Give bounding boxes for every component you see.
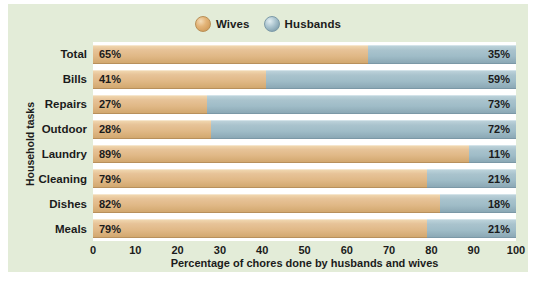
chart-panel: Wives Husbands Household tasks TotalBill… bbox=[8, 4, 528, 272]
bar-track: 28%72% bbox=[93, 120, 516, 139]
bar-segment-husbands: 73% bbox=[207, 95, 516, 114]
bar-track: 82%18% bbox=[93, 194, 516, 213]
x-axis-tick-label: 100 bbox=[507, 244, 525, 256]
bar-segment-husbands: 72% bbox=[211, 120, 516, 139]
bar-track: 79%21% bbox=[93, 169, 516, 188]
x-axis-tick-label: 50 bbox=[298, 244, 310, 256]
bar-segment-wives: 27% bbox=[93, 95, 207, 114]
bar-value-husbands: 18% bbox=[482, 198, 516, 210]
x-axis-tick-label: 10 bbox=[129, 244, 141, 256]
bar-value-husbands: 59% bbox=[482, 73, 516, 85]
category-label: Outdoor bbox=[36, 117, 91, 142]
bar-segment-wives: 79% bbox=[93, 219, 427, 238]
bar-row: 28%72% bbox=[93, 117, 516, 142]
bar-row: 27%73% bbox=[93, 92, 516, 117]
sphere-blue-icon bbox=[264, 16, 280, 32]
category-label: Dishes bbox=[36, 191, 91, 216]
x-axis-tick-label: 0 bbox=[90, 244, 96, 256]
bar-track: 79%21% bbox=[93, 219, 516, 238]
category-label: Total bbox=[36, 42, 91, 67]
category-axis-labels: TotalBillsRepairsOutdoorLaundryCleaningD… bbox=[36, 42, 91, 241]
legend-label-wives: Wives bbox=[216, 18, 250, 30]
bar-segment-husbands: 35% bbox=[368, 45, 516, 64]
bar-segment-husbands: 59% bbox=[266, 70, 516, 89]
bar-value-husbands: 35% bbox=[482, 48, 516, 60]
category-label: Bills bbox=[36, 67, 91, 92]
category-label: Laundry bbox=[36, 142, 91, 167]
x-axis-tick-label: 30 bbox=[214, 244, 226, 256]
x-axis-title: Percentage of chores done by husbands an… bbox=[93, 257, 516, 269]
bar-segment-wives: 65% bbox=[93, 45, 368, 64]
bar-value-wives: 65% bbox=[93, 48, 127, 60]
bar-segment-wives: 79% bbox=[93, 169, 427, 188]
plot-area: 65%35%41%59%27%73%28%72%89%11%79%21%82%1… bbox=[93, 42, 516, 241]
y-axis-title-text: Household tasks bbox=[24, 102, 36, 186]
bar-row: 41%59% bbox=[93, 67, 516, 92]
category-label: Repairs bbox=[36, 92, 91, 117]
x-axis-tick-label: 80 bbox=[425, 244, 437, 256]
x-axis-tick-label: 70 bbox=[383, 244, 395, 256]
bar-value-husbands: 73% bbox=[482, 98, 516, 110]
legend-entry-husbands: Husbands bbox=[264, 16, 341, 32]
bar-value-wives: 89% bbox=[93, 148, 127, 160]
bar-segment-husbands: 18% bbox=[440, 194, 516, 213]
bar-segment-husbands: 21% bbox=[427, 219, 516, 238]
bar-segment-husbands: 11% bbox=[469, 145, 516, 164]
bar-value-wives: 79% bbox=[93, 223, 127, 235]
category-label: Meals bbox=[36, 216, 91, 241]
legend-entry-wives: Wives bbox=[195, 16, 250, 32]
bar-row: 79%21% bbox=[93, 166, 516, 191]
bar-value-husbands: 11% bbox=[483, 148, 516, 160]
chart-legend: Wives Husbands bbox=[8, 12, 528, 36]
bar-track: 65%35% bbox=[93, 45, 516, 64]
bar-segment-wives: 82% bbox=[93, 194, 440, 213]
bar-value-wives: 41% bbox=[93, 73, 127, 85]
bar-value-wives: 28% bbox=[93, 123, 127, 135]
bar-row: 79%21% bbox=[93, 216, 516, 241]
bar-value-husbands: 72% bbox=[482, 123, 516, 135]
bar-value-husbands: 21% bbox=[482, 173, 516, 185]
x-axis-tick-label: 20 bbox=[171, 244, 183, 256]
bar-segment-husbands: 21% bbox=[427, 169, 516, 188]
sphere-orange-icon bbox=[195, 16, 211, 32]
bar-segment-wives: 89% bbox=[93, 145, 469, 164]
x-axis-tick-label: 40 bbox=[256, 244, 268, 256]
bar-series-group: 65%35%41%59%27%73%28%72%89%11%79%21%82%1… bbox=[93, 42, 516, 241]
bar-track: 89%11% bbox=[93, 145, 516, 164]
bar-track: 27%73% bbox=[93, 95, 516, 114]
bar-value-wives: 27% bbox=[93, 98, 127, 110]
bar-row: 89%11% bbox=[93, 142, 516, 167]
bar-row: 65%35% bbox=[93, 42, 516, 67]
bar-value-wives: 82% bbox=[93, 198, 127, 210]
category-label: Cleaning bbox=[36, 166, 91, 191]
bar-value-husbands: 21% bbox=[482, 223, 516, 235]
x-axis-tick-label: 90 bbox=[468, 244, 480, 256]
bar-track: 41%59% bbox=[93, 70, 516, 89]
x-axis-tick-label: 60 bbox=[341, 244, 353, 256]
bar-segment-wives: 28% bbox=[93, 120, 211, 139]
bar-value-wives: 79% bbox=[93, 173, 127, 185]
legend-label-husbands: Husbands bbox=[285, 18, 341, 30]
bar-segment-wives: 41% bbox=[93, 70, 266, 89]
bar-row: 82%18% bbox=[93, 191, 516, 216]
